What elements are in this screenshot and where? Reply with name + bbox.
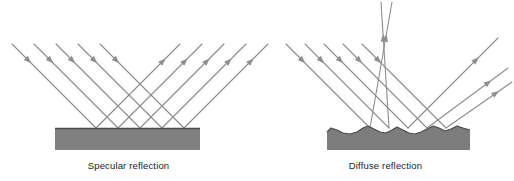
specular-incident-ray (78, 44, 162, 128)
specular-reflected-ray (162, 44, 246, 128)
panel-specular (12, 44, 268, 150)
caption-specular-reflection: Specular reflection (0, 160, 257, 171)
specular-incident-ray (100, 44, 184, 128)
diffuse-incident-ray (362, 44, 446, 128)
caption-diffuse-reflection: Diffuse reflection (257, 160, 514, 171)
reflection-diagram-canvas (0, 0, 514, 181)
diffuse-surface (327, 126, 470, 150)
panel-diffuse (286, 2, 512, 150)
diffuse-incident-rays (286, 44, 446, 128)
specular-reflected-ray (96, 44, 180, 128)
diffuse-incident-ray (305, 44, 389, 128)
specular-reflected-ray (184, 44, 268, 128)
specular-reflected-rays (96, 44, 268, 128)
specular-reflected-ray (140, 44, 224, 128)
reflection-diagram-figure: Specular reflection Diffuse reflection (0, 0, 514, 181)
specular-surface-slab (55, 128, 200, 150)
specular-reflected-ray (118, 44, 202, 128)
diffuse-incident-ray (324, 44, 408, 128)
specular-surface (55, 128, 200, 150)
specular-incident-ray (12, 44, 96, 128)
diffuse-reflected-rays (370, 2, 512, 128)
diffuse-incident-ray (286, 44, 370, 128)
specular-incident-rays (12, 44, 184, 128)
diffuse-reflected-ray (427, 68, 508, 128)
specular-incident-ray (56, 44, 140, 128)
diffuse-reflected-ray (381, 2, 389, 128)
specular-incident-ray (34, 44, 118, 128)
diffuse-reflected-ray-arrowhead (483, 78, 493, 87)
diffuse-reflected-ray-arrowhead (491, 89, 501, 98)
